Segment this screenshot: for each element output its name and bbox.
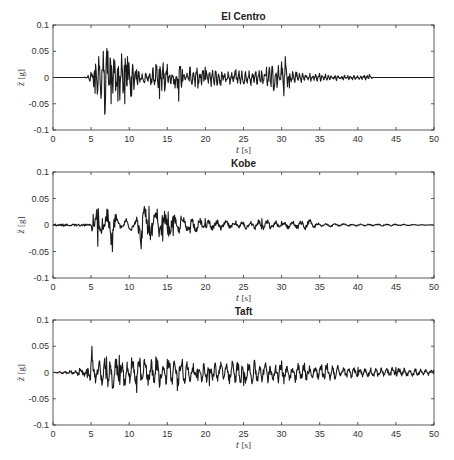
panel-el-centro: El Centro05101520253035404550-0.1-0.0500… <box>15 11 439 155</box>
x-tick-label: 50 <box>429 134 439 144</box>
x-tick-label: 25 <box>238 134 248 144</box>
y-tick-label: -0.1 <box>33 273 49 283</box>
y-tick-label: -0.05 <box>28 99 49 109</box>
y-tick-label: 0.05 <box>31 46 49 56</box>
y-axis-label: z̈ [g] <box>15 69 26 87</box>
x-tick-label: 45 <box>391 134 401 144</box>
x-tick-label: 5 <box>89 429 94 439</box>
y-tick-label: 0.1 <box>36 20 49 30</box>
panel-taft: Taft05101520253035404550-0.1-0.0500.050.… <box>15 306 439 450</box>
x-tick-label: 40 <box>353 429 363 439</box>
signal-line <box>53 49 434 115</box>
y-tick-label: -0.1 <box>33 420 49 430</box>
x-tick-label: 25 <box>238 282 248 292</box>
x-tick-label: 5 <box>89 282 94 292</box>
x-tick-label: 0 <box>50 134 55 144</box>
x-tick-label: 20 <box>200 429 210 439</box>
signal-line <box>53 346 434 392</box>
x-tick-label: 20 <box>200 282 210 292</box>
y-axis-label: z̈ [g] <box>15 364 26 382</box>
x-tick-label: 25 <box>238 429 248 439</box>
x-axis-label: t [s] <box>236 439 251 450</box>
y-tick-label: 0 <box>44 73 49 83</box>
x-tick-label: 0 <box>50 429 55 439</box>
x-tick-label: 35 <box>315 429 325 439</box>
chart-title: Kobe <box>231 158 256 169</box>
x-axis-label: t [s] <box>236 144 251 155</box>
x-tick-label: 5 <box>89 134 94 144</box>
y-tick-label: 0 <box>44 220 49 230</box>
x-tick-label: 10 <box>124 134 134 144</box>
y-tick-label: 0.1 <box>36 167 49 177</box>
x-tick-label: 50 <box>429 429 439 439</box>
x-tick-label: 15 <box>162 134 172 144</box>
x-tick-label: 50 <box>429 282 439 292</box>
x-axis-label: t [s] <box>236 292 251 303</box>
x-tick-label: 40 <box>353 282 363 292</box>
x-tick-label: 30 <box>277 429 287 439</box>
y-tick-label: 0.1 <box>36 315 49 325</box>
x-tick-label: 0 <box>50 282 55 292</box>
chart-title: Taft <box>235 306 253 317</box>
x-tick-label: 15 <box>162 429 172 439</box>
chart-title: El Centro <box>221 11 265 22</box>
y-axis-label: z̈ [g] <box>15 217 26 235</box>
y-tick-label: 0.05 <box>31 194 49 204</box>
x-tick-label: 35 <box>315 134 325 144</box>
x-tick-label: 15 <box>162 282 172 292</box>
x-tick-label: 30 <box>277 134 287 144</box>
x-tick-label: 10 <box>124 429 134 439</box>
y-tick-label: -0.05 <box>28 247 49 257</box>
y-tick-label: -0.1 <box>33 125 49 135</box>
x-tick-label: 10 <box>124 282 134 292</box>
y-tick-label: -0.05 <box>28 394 49 404</box>
x-tick-label: 40 <box>353 134 363 144</box>
signal-line <box>53 206 434 251</box>
x-tick-label: 45 <box>391 429 401 439</box>
panel-kobe: Kobe05101520253035404550-0.1-0.0500.050.… <box>15 158 439 303</box>
figure: El Centro05101520253035404550-0.1-0.0500… <box>0 0 454 460</box>
x-tick-label: 35 <box>315 282 325 292</box>
y-tick-label: 0.05 <box>31 341 49 351</box>
x-tick-label: 20 <box>200 134 210 144</box>
x-tick-label: 45 <box>391 282 401 292</box>
y-tick-label: 0 <box>44 368 49 378</box>
x-tick-label: 30 <box>277 282 287 292</box>
